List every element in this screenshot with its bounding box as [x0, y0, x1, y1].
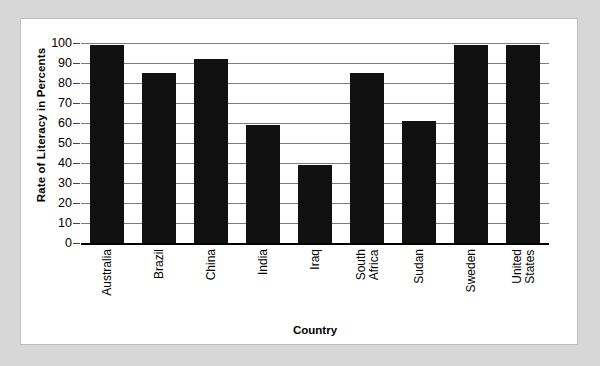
x-axis-tick-label: Australia [101, 249, 114, 296]
y-axis-tick-label: 60 [58, 116, 72, 130]
bar-slot [81, 43, 133, 243]
y-axis-tick [73, 103, 80, 104]
x-axis-tick-label: India [257, 249, 270, 275]
x-axis-tick-label-line: Brazil [152, 249, 166, 279]
y-axis-tick-label: 70 [58, 96, 72, 110]
x-axis-tick-label-line: India [256, 249, 270, 275]
x-axis-tick-label-slot: Australia [81, 247, 133, 325]
x-axis-tick-label-slot: SouthAfrica [341, 247, 393, 325]
y-axis-tick [73, 83, 80, 84]
bar-slot [237, 43, 289, 243]
bar-series [81, 43, 549, 243]
y-axis-tick-label: 80 [58, 76, 72, 90]
bar-slot [133, 43, 185, 243]
x-axis-tick-label-line: States [523, 249, 536, 284]
y-axis-tick [73, 183, 80, 184]
x-axis-tick-label: SouthAfrica [355, 249, 380, 280]
x-axis-tick-label-slot: Brazil [133, 247, 185, 325]
bar[interactable] [142, 73, 176, 243]
x-axis-tick-label-line: Australia [100, 249, 114, 296]
x-axis-tick-label-slot: China [185, 247, 237, 325]
bar[interactable] [350, 73, 384, 243]
y-axis-tick [73, 223, 80, 224]
x-axis-tick-labels: AustraliaBrazilChinaIndiaIraqSouthAfrica… [81, 247, 549, 325]
x-axis-tick-label-line: United [510, 249, 524, 284]
x-axis-tick-label-line: Sudan [412, 249, 426, 284]
x-axis-tick-label: UnitedStates [511, 249, 536, 284]
x-axis-line: 0 [81, 243, 549, 245]
bar-slot [393, 43, 445, 243]
x-axis-tick-label: Sudan [413, 249, 426, 284]
plot-area: 1009080706050403020100 [81, 43, 549, 243]
x-axis-title: Country [81, 324, 549, 336]
bar-slot [185, 43, 237, 243]
bar[interactable] [298, 165, 332, 243]
x-axis-tick-label: Iraq [309, 249, 322, 270]
bar-chart: Rate of Literacy in Percents 10090807060… [21, 19, 579, 346]
x-axis-tick-label-line: China [204, 249, 218, 280]
y-axis-tick [73, 243, 80, 244]
y-axis-tick-label: 10 [58, 216, 72, 230]
bar[interactable] [194, 59, 228, 243]
y-axis-tick-label: 90 [58, 56, 72, 70]
bar[interactable] [402, 121, 436, 243]
x-axis-tick-label-slot: Sweden [445, 247, 497, 325]
y-axis-tick-label: 0 [65, 236, 72, 250]
x-axis-tick-label: Sweden [465, 249, 478, 292]
chart-page: Rate of Literacy in Percents 10090807060… [0, 0, 600, 366]
chart-card: Rate of Literacy in Percents 10090807060… [20, 18, 578, 345]
bar-slot [497, 43, 549, 243]
y-axis-tick [73, 123, 80, 124]
y-axis-tick [73, 203, 80, 204]
y-axis-title: Rate of Literacy in Percents [35, 25, 47, 225]
bar-slot [289, 43, 341, 243]
y-axis-tick-label: 20 [58, 196, 72, 210]
x-axis-tick-label-slot: Iraq [289, 247, 341, 325]
x-axis-tick-label-line: Iraq [308, 249, 322, 270]
y-axis-tick-label: 40 [58, 156, 72, 170]
bar[interactable] [90, 45, 124, 243]
x-axis-tick-label: Brazil [153, 249, 166, 279]
x-axis-tick-label-slot: Sudan [393, 247, 445, 325]
bar[interactable] [246, 125, 280, 243]
y-axis-tick [73, 143, 80, 144]
x-axis-tick-label-line: South [354, 249, 368, 280]
x-axis-tick-label-slot: UnitedStates [497, 247, 549, 325]
y-axis-tick-label: 30 [58, 176, 72, 190]
y-axis-tick [73, 63, 80, 64]
bar[interactable] [506, 45, 540, 243]
bar-slot [341, 43, 393, 243]
bar[interactable] [454, 45, 488, 243]
y-axis-tick [73, 163, 80, 164]
x-axis-tick-label: China [205, 249, 218, 280]
y-axis-tick-label: 50 [58, 136, 72, 150]
x-axis-tick-label-line: Sweden [464, 249, 478, 292]
x-axis-tick-label-line: Africa [367, 249, 380, 280]
x-axis-tick-label-slot: India [237, 247, 289, 325]
y-axis-tick [73, 43, 80, 44]
y-axis-tick-label: 100 [51, 36, 72, 50]
bar-slot [445, 43, 497, 243]
